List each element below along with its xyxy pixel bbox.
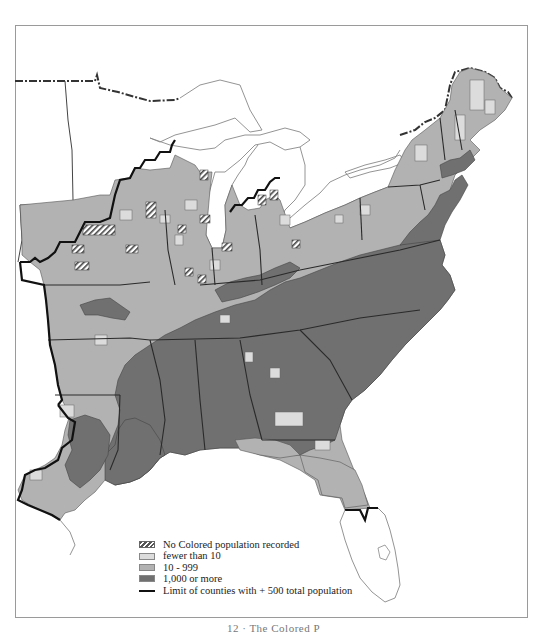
state-line-mn: [65, 81, 73, 200]
legend-label: fewer than 10: [163, 550, 221, 561]
legend-item-none: No Colored population recorded: [139, 539, 352, 550]
legend-label: 1,000 or more: [163, 573, 222, 584]
texas-coast: [60, 520, 75, 555]
legend-label: No Colored population recorded: [163, 539, 299, 550]
legend-item-few: fewer than 10: [139, 550, 352, 561]
legend-item-limit: Limit of counties with + 500 total popul…: [139, 585, 352, 596]
legend-label: Limit of counties with + 500 total popul…: [163, 585, 352, 596]
mid-swatch-icon: [139, 564, 155, 571]
limit-line-florida: [345, 508, 378, 520]
page-caption: 12 · The Colored P: [0, 622, 547, 634]
legend-item-many: 1,000 or more: [139, 573, 352, 584]
limit-line-icon: [139, 590, 155, 592]
legend-label: 10 - 999: [163, 562, 198, 573]
hatched-swatch-icon: [139, 541, 155, 548]
legend: No Colored population recorded fewer tha…: [139, 539, 352, 596]
legend-item-mid: 10 - 999: [139, 562, 352, 573]
region-mid-florida: [300, 455, 368, 508]
lake-superior: [150, 80, 262, 142]
lake-okeechobee: [378, 545, 390, 560]
dark-swatch-icon: [139, 575, 155, 582]
light-swatch-icon: [139, 553, 155, 560]
canada-border: [15, 75, 180, 101]
